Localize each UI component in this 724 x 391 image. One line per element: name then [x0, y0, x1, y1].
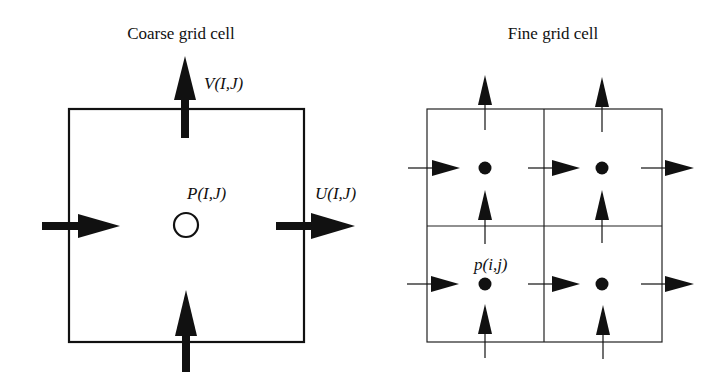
- fine-u-arrow-icon: [407, 276, 459, 292]
- fine-pressure-node-icon: [596, 162, 609, 175]
- u-inflow-arrow-icon: [42, 214, 120, 238]
- fine-v-arrow-icon: [596, 305, 610, 359]
- coarse-cell-title: Coarse grid cell: [127, 24, 235, 44]
- v-inflow-arrow-icon: [175, 290, 197, 372]
- fine-v-arrow-icon: [478, 75, 492, 130]
- fine-p-pressure-label: p(i,j): [474, 255, 508, 275]
- fine-v-arrow-icon: [478, 304, 492, 358]
- pressure-node-icon: [174, 213, 198, 237]
- fine-u-arrow-icon: [528, 276, 580, 292]
- fine-v-arrow-icon: [595, 190, 609, 243]
- coarse-cell: [42, 56, 355, 372]
- fine-pressure-node-icon: [479, 278, 492, 291]
- p-pressure-label: P(I,J): [187, 184, 226, 204]
- v-velocity-label: V(I,J): [204, 74, 243, 94]
- u-velocity-label: U(I,J): [315, 184, 356, 204]
- fine-pressure-node-icon: [596, 278, 609, 291]
- v-velocity-arrow-icon: [174, 56, 196, 138]
- diagram-canvas: [0, 0, 724, 391]
- fine-u-arrow-icon: [641, 160, 694, 176]
- fine-u-arrow-icon: [528, 160, 580, 176]
- fine-pressure-node-icon: [479, 162, 492, 175]
- fine-u-arrow-icon: [408, 160, 460, 176]
- fine-cell: [427, 109, 662, 342]
- fine-v-arrow-icon: [478, 190, 492, 244]
- fine-cell-title: Fine grid cell: [508, 24, 599, 44]
- u-velocity-arrow-icon: [276, 213, 355, 239]
- fine-u-arrow-icon: [641, 276, 694, 292]
- fine-v-arrow-icon: [595, 77, 609, 132]
